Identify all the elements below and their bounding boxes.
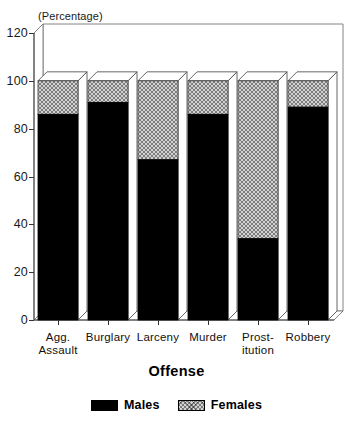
x-tick-mark	[58, 320, 59, 325]
legend-item-males: Males	[91, 398, 160, 412]
bar-segment-males	[288, 107, 328, 320]
y-tick-mark	[29, 224, 34, 225]
x-tick-mark	[208, 320, 209, 325]
percentage-unit-label: (Percentage)	[38, 10, 103, 22]
chart-legend: Males Females	[0, 398, 353, 412]
y-tick-label: 0	[2, 313, 28, 327]
bar-group	[288, 72, 337, 320]
x-tick-label: Robbery	[278, 331, 338, 344]
legend-item-females: Females	[178, 398, 262, 412]
bar-segment-males	[38, 114, 78, 320]
bar-group	[38, 72, 87, 320]
y-tick-label: 100	[2, 74, 28, 88]
y-tick-mark	[29, 33, 34, 34]
bar-segment-females	[238, 81, 278, 239]
legend-swatch-males-icon	[91, 400, 118, 411]
y-tick-label: 120	[2, 26, 28, 40]
legend-swatch-females-icon	[178, 400, 205, 411]
bar-segment-females	[288, 81, 328, 107]
legend-label-females: Females	[211, 398, 262, 412]
y-tick-label: 80	[2, 122, 28, 136]
x-tick-mark	[108, 320, 109, 325]
y-tick-label: 20	[2, 265, 28, 279]
y-tick-label: 60	[2, 170, 28, 184]
y-tick-mark	[29, 129, 34, 130]
bar-segment-females	[88, 81, 128, 103]
x-axis-title: Offense	[0, 363, 353, 379]
x-tick-mark	[158, 320, 159, 325]
bar-group	[188, 72, 237, 320]
x-tick-mark	[308, 320, 309, 325]
bar-chart: (Percentage) 020406080100120 Agg. Assaul…	[0, 0, 353, 426]
bar-segment-females	[38, 81, 78, 114]
bar-group	[238, 72, 287, 320]
bar-group	[138, 72, 187, 320]
legend-label-males: Males	[124, 398, 160, 412]
y-tick-label: 40	[2, 217, 28, 231]
bar-group	[88, 72, 137, 320]
bar-segment-females	[188, 81, 228, 114]
bar-segment-males	[88, 102, 128, 320]
y-tick-mark	[29, 177, 34, 178]
bar-segment-males	[238, 239, 278, 320]
bar-segment-females	[138, 81, 178, 160]
bar-segment-males	[138, 160, 178, 320]
x-tick-mark	[258, 320, 259, 325]
y-tick-mark	[29, 81, 34, 82]
bar-segment-males	[188, 114, 228, 320]
y-tick-mark	[29, 320, 34, 321]
y-tick-mark	[29, 272, 34, 273]
